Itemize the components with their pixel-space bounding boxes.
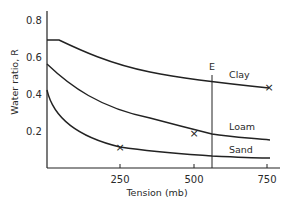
x-axis-title: Tension (mb) [125, 187, 187, 198]
e-label: E [209, 61, 215, 72]
clay-curve [47, 40, 269, 88]
y-tick-label: 0.2 [26, 126, 42, 137]
chart: 0.8 0.6 0.4 0.2 250 500 750 Tension (mb)… [0, 0, 294, 206]
clay-label: Clay [229, 69, 250, 80]
y-axis-title: Water ratio, R [9, 49, 20, 115]
loam-label: Loam [229, 121, 255, 132]
x-tick-label: 500 [184, 174, 203, 185]
sand-label: Sand [229, 144, 253, 155]
y-tick-label: 0.4 [26, 89, 42, 100]
x-marker-icon: × [115, 141, 124, 154]
y-tick-label: 0.6 [26, 52, 42, 63]
x-tick-label: 750 [257, 174, 276, 185]
x-tick-label: 250 [110, 174, 129, 185]
x-marker-icon: × [189, 127, 198, 140]
y-tick-label: 0.8 [26, 15, 42, 26]
x-marker-icon: × [264, 81, 273, 94]
